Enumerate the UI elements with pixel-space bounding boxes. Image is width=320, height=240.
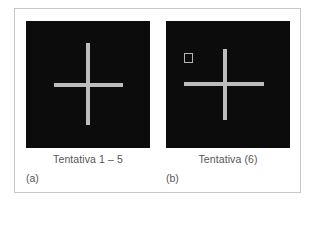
panel-a-cross-horizontal bbox=[54, 83, 123, 87]
panel-b-target-square bbox=[184, 53, 193, 63]
panel-a-caption: Tentativa 1 – 5 bbox=[26, 153, 150, 165]
panel-b-label: (b) bbox=[166, 172, 179, 184]
panel-a-label: (a) bbox=[26, 172, 39, 184]
panel-b-caption: Tentativa (6) bbox=[166, 153, 290, 165]
panel-b-cross-horizontal bbox=[184, 82, 264, 86]
